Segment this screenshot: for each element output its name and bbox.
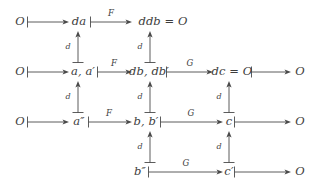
edge-label-d-col2-r1r2: d [65,43,70,51]
node-row2-col3: db, db′ [129,66,169,78]
node-row3-col1: O [15,116,25,128]
node-row1-col2: da [72,16,86,28]
edge-label-row3-F: F [106,109,112,118]
edge-label-row2-G: G [187,59,194,68]
arrow-d-col3-row2-to-row1 [145,31,156,63]
node-row1-col3: ddb = O [138,16,187,28]
arrow-d-col2-row3-to-row2 [73,81,84,113]
diagram-arrow-layer: da : from x=27 to x=68 --> ddb : from x=… [0,0,317,191]
edge-label-d-col3-r2r3: d [137,93,142,101]
arrow-r2-db-to-dc [167,67,214,78]
arrow-r1-da-to-ddb [91,17,133,28]
node-row3-col2: a″ [73,116,84,128]
node-row1-col1: O [15,16,25,28]
arrow-r2-dc-to-O [252,67,292,78]
arrow-r4-bpp-to-cp [149,167,224,178]
node-row4-col5: O [295,166,305,178]
node-row2-col1: O [15,66,25,78]
node-row4-col3: b″ [134,166,146,178]
node-row3-col4: c [226,116,233,128]
edge-label-d-col3-r1r2: d [137,43,142,51]
node-row3-col5: O [295,116,305,128]
arrow-r2-O-to-a [28,67,70,78]
edge-label-row1-F: F [108,9,114,18]
arrow-d-col3-row3-to-row2 [145,81,156,113]
arrow-d-col3-row4-to-row3 [145,131,156,163]
edge-label-d-col2-r2r3: d [65,93,70,101]
arrow-r3-app-to-b [89,117,133,128]
arrow-r3-b-to-c [161,117,224,128]
edge-label-d-col3-r3r4: d [137,143,142,151]
edge-label-d-col4-r2r3: d [216,93,221,101]
node-row2-col2: a, a′ [71,66,95,78]
arrow-r4-cp-to-O [235,167,292,178]
edge-label-d-col4-r3r4: d [216,143,221,151]
arrow-d-col4-row4-to-row3 [224,131,235,163]
node-row2-col5: O [295,66,305,78]
arrow-r3-c-to-O [235,117,292,128]
arrow-d-col4-row3-to-row2 [224,81,235,113]
edge-label-row3-G: G [188,109,195,118]
edge-label-row4-G: G [183,159,190,168]
node-row4-col4: c′ [224,166,233,178]
edge-label-row2-F: F [111,59,117,68]
node-row3-col3: b, b′ [133,116,158,128]
arrow-r2-a-to-db [98,67,133,78]
arrow-r3-O-to-app [28,117,70,128]
arrow-d-col2-row2-to-row1 [73,31,84,63]
arrow-r1-O-to-da [28,17,70,28]
node-row2-col4: dc = O [212,66,253,78]
